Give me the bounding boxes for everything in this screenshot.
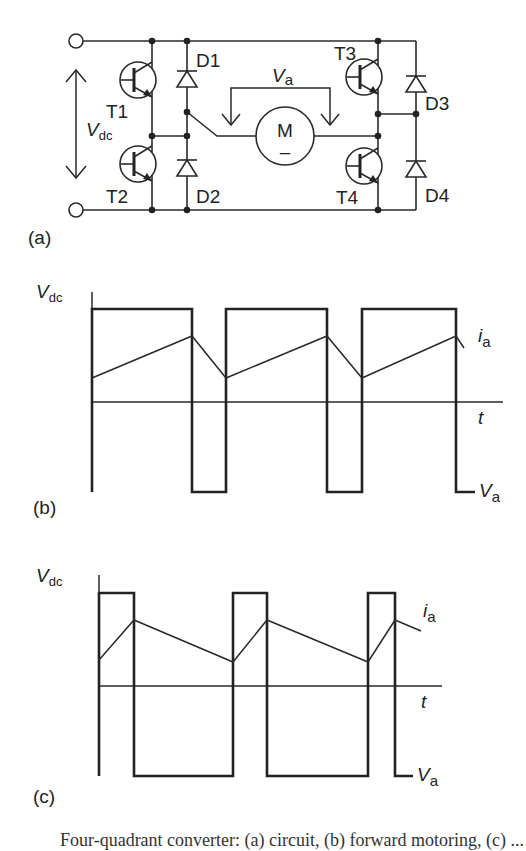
- ia-current-ripple: [99, 620, 421, 662]
- t2-label: T2: [106, 186, 128, 207]
- transistor-t1-icon: [120, 62, 156, 98]
- t-axis-label: t: [421, 691, 427, 712]
- circuit-panel-a: Vdc T1 T2: [28, 34, 450, 248]
- figure-caption-partial: Four-quadrant converter: (a) circuit, (b…: [60, 830, 524, 851]
- t3-label: T3: [334, 43, 356, 64]
- diode-d2-icon: [177, 160, 197, 176]
- panel-a-label: (a): [28, 227, 51, 248]
- ia-label: ia: [478, 325, 491, 350]
- vdc-axis-label: Vdc: [36, 281, 63, 305]
- waveform-panel-c: Vdc ia t Va (c): [33, 565, 442, 807]
- supply-terminal-negative: [69, 203, 83, 217]
- t1-label: T1: [106, 101, 128, 122]
- panel-c-label: (c): [33, 786, 55, 807]
- va-square-wave: [92, 309, 475, 492]
- ia-label: ia: [423, 600, 436, 625]
- va-axis-label: Va: [479, 480, 501, 505]
- vdc-axis-label: Vdc: [36, 565, 63, 589]
- d2-label: D2: [196, 186, 220, 207]
- waveform-panel-b: Vdc ia t Va (b): [33, 281, 503, 518]
- vdc-label: Vdc: [86, 119, 113, 143]
- diode-d4-icon: [406, 161, 426, 177]
- d4-label: D4: [425, 185, 450, 206]
- d3-label: D3: [425, 93, 449, 114]
- d1-label: D1: [196, 50, 220, 71]
- t-axis-label: t: [478, 407, 484, 428]
- transistor-t3-icon: [346, 59, 382, 95]
- transistor-t2-icon: [120, 146, 156, 182]
- t4-label: T4: [336, 187, 359, 208]
- motor-dc-mark: –: [280, 141, 291, 162]
- ia-current-ripple: [92, 336, 464, 378]
- motor-symbol: M: [277, 120, 293, 141]
- panel-b-label: (b): [33, 497, 56, 518]
- va-square-wave: [99, 593, 413, 776]
- vdc-arrow-icon: [66, 70, 86, 178]
- diode-d1-icon: [177, 71, 197, 87]
- transistor-t4-icon: [346, 148, 382, 184]
- diode-d3-icon: [406, 76, 426, 92]
- va-label: Va: [272, 65, 294, 88]
- va-axis-label: Va: [417, 764, 439, 789]
- supply-terminal-positive: [69, 34, 83, 48]
